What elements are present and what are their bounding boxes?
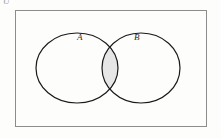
venn-diagram-figure: U A B: [0, 0, 221, 139]
venn-diagram-canvas: [0, 0, 221, 139]
set-b-label: B: [134, 33, 140, 42]
set-a-label: A: [77, 33, 83, 42]
